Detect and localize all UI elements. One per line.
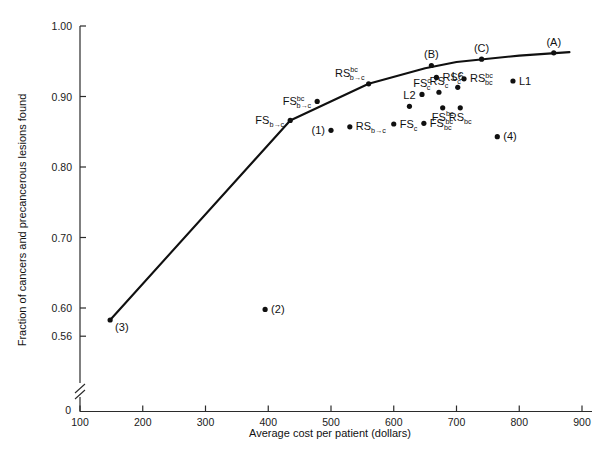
x-tick-label: 100 bbox=[71, 416, 89, 428]
point-label-base: (C) bbox=[474, 42, 489, 54]
point-label-base: (A) bbox=[546, 36, 561, 48]
point-label-base: RS bbox=[449, 111, 464, 123]
data-point-marker[interactable] bbox=[347, 124, 352, 129]
point-label-base: RS bbox=[335, 67, 350, 79]
axes bbox=[75, 26, 592, 412]
point-label-subscript: bc bbox=[464, 117, 472, 126]
point-label-base: RS bbox=[470, 72, 485, 84]
point-label-base: (1) bbox=[312, 124, 325, 136]
point-label-base: (2) bbox=[271, 303, 284, 315]
point-label: (C) bbox=[474, 42, 489, 54]
data-point-marker[interactable] bbox=[366, 81, 371, 86]
data-point-marker[interactable] bbox=[108, 317, 113, 322]
x-tick-label: 900 bbox=[573, 416, 591, 428]
data-point-marker[interactable] bbox=[288, 118, 293, 123]
point-label: RSb→c bbox=[356, 120, 386, 135]
data-point-marker[interactable] bbox=[419, 92, 424, 97]
point-label-base: FS bbox=[400, 118, 414, 130]
chart-figure: 0.560.600.700.800.901.001002003004005006… bbox=[0, 0, 601, 450]
x-tick-label: 700 bbox=[448, 416, 466, 428]
x-tick-label: 800 bbox=[510, 416, 528, 428]
point-label: FSb→c bbox=[255, 114, 284, 129]
scatter-plot-canvas: 0.560.600.700.800.901.001002003004005006… bbox=[0, 0, 601, 450]
x-tick-label: 300 bbox=[197, 416, 215, 428]
y-tick-label: 1.00 bbox=[52, 20, 73, 32]
point-label-subscript: b→c bbox=[371, 126, 386, 135]
data-point-marker[interactable] bbox=[328, 128, 333, 133]
x-tick-label: 500 bbox=[322, 416, 340, 428]
y-axis-break-marker bbox=[75, 384, 85, 399]
point-label-subscript: bc bbox=[485, 78, 493, 87]
data-point-marker[interactable] bbox=[510, 78, 515, 83]
point-label: FSc bbox=[400, 118, 418, 133]
point-label: FSbcb→c bbox=[283, 94, 312, 111]
x-axis-title: Average cost per patient (dollars) bbox=[249, 427, 411, 439]
point-label: L2 bbox=[403, 89, 415, 101]
point-label-base: FS bbox=[255, 114, 269, 126]
frontier-path bbox=[110, 52, 569, 320]
data-point-marker[interactable] bbox=[551, 50, 556, 55]
y-tick-label: 0.90 bbox=[52, 91, 73, 103]
data-points bbox=[108, 50, 557, 322]
y-tick-label: 0.70 bbox=[52, 232, 73, 244]
point-label-base: L1 bbox=[519, 75, 531, 87]
origin-label: 0 bbox=[65, 404, 71, 416]
point-label-base: L6 bbox=[452, 70, 464, 82]
point-label-subscript: c bbox=[414, 124, 418, 133]
x-tick-label: 600 bbox=[385, 416, 403, 428]
point-label: (2) bbox=[271, 303, 284, 315]
x-tick-label: 200 bbox=[134, 416, 152, 428]
point-label: (B) bbox=[424, 48, 439, 60]
data-point-marker[interactable] bbox=[440, 105, 445, 110]
efficient-frontier-curve bbox=[110, 52, 569, 320]
x-tick-label: 400 bbox=[259, 416, 277, 428]
point-label: RSbcbc bbox=[470, 71, 493, 88]
point-label: (1) bbox=[312, 124, 325, 136]
point-label-subscript: b→c bbox=[296, 101, 311, 110]
y-axis-title: Fraction of cancers and precancerous les… bbox=[16, 94, 28, 347]
axis-ticks: 0.560.600.700.800.901.001002003004005006… bbox=[52, 20, 591, 428]
point-label: L1 bbox=[519, 75, 531, 87]
data-point-marker[interactable] bbox=[458, 105, 463, 110]
point-label: RSbcb→c bbox=[335, 65, 365, 82]
data-point-marker[interactable] bbox=[429, 63, 434, 68]
data-point-marker[interactable] bbox=[263, 307, 268, 312]
data-point-marker[interactable] bbox=[436, 90, 441, 95]
point-label: L6 bbox=[452, 70, 464, 82]
data-point-marker[interactable] bbox=[495, 134, 500, 139]
point-label-base: (3) bbox=[115, 321, 128, 333]
y-tick-label: 0.60 bbox=[52, 302, 73, 314]
point-label-base: (B) bbox=[424, 48, 439, 60]
y-tick-label: 0.80 bbox=[52, 161, 73, 173]
point-label: (3) bbox=[115, 321, 128, 333]
axis-titles: Average cost per patient (dollars)Fracti… bbox=[16, 94, 411, 439]
y-tick-label: 0.56 bbox=[52, 330, 73, 342]
data-point-marker[interactable] bbox=[407, 104, 412, 109]
point-label: (A) bbox=[546, 36, 561, 48]
point-label: (4) bbox=[503, 130, 516, 142]
point-label-base: FS bbox=[283, 95, 297, 107]
data-point-labels: (3)(2)FSb→c(1)FSbcb→cRSb→cRSbcb→cFScL2FS… bbox=[115, 36, 561, 333]
data-point-marker[interactable] bbox=[391, 121, 396, 126]
data-point-marker[interactable] bbox=[479, 57, 484, 62]
point-label-base: FS bbox=[432, 111, 446, 123]
point-label-subscript: b→c bbox=[269, 120, 284, 129]
data-point-marker[interactable] bbox=[315, 99, 320, 104]
data-point-marker[interactable] bbox=[421, 121, 426, 126]
point-label-base: FS bbox=[413, 77, 427, 89]
point-label-subscript: b→c bbox=[350, 73, 365, 82]
point-label-base: RS bbox=[356, 120, 371, 132]
point-label-base: (4) bbox=[503, 130, 516, 142]
point-label-base: L2 bbox=[403, 89, 415, 101]
